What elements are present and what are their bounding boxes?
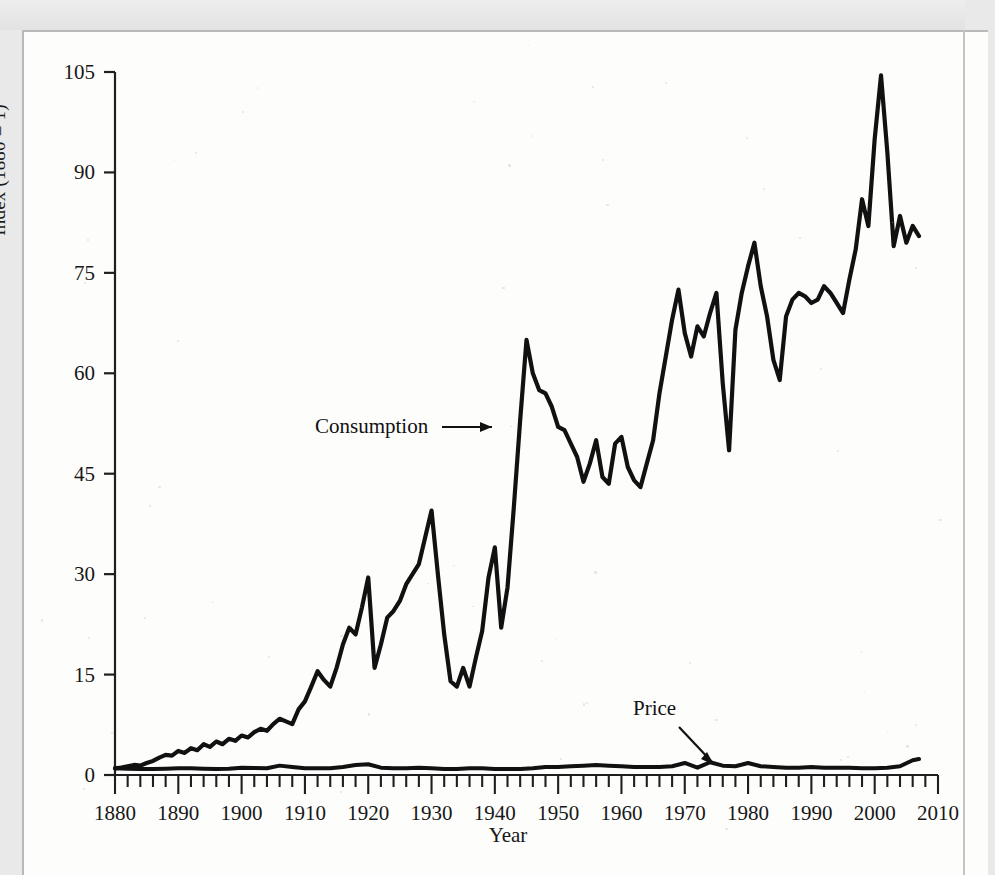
x-axis-group: 1880189019001910192019301940195019601970… — [94, 775, 959, 825]
x-axis-tick-label: 1930 — [411, 801, 453, 825]
y-axis-tick-label: 30 — [74, 562, 95, 586]
y-axis-tick-label: 60 — [74, 361, 95, 385]
x-axis-tick-label: 2010 — [917, 801, 959, 825]
x-axis-tick-label: 1970 — [664, 801, 706, 825]
scan-speck — [594, 571, 597, 574]
scan-speck — [906, 745, 908, 747]
chart-svg: 0153045607590105 18801890190019101920193… — [0, 0, 995, 875]
consumption-arrow-icon — [442, 422, 492, 432]
scan-speck — [820, 368, 821, 369]
x-axis-tick-label: 1960 — [600, 801, 642, 825]
consumption-series-line — [115, 75, 919, 768]
scan-speck — [799, 237, 801, 239]
y-axis-group: 0153045607590105 — [64, 60, 116, 787]
scan-speck — [840, 759, 842, 761]
price-series-line — [115, 759, 919, 769]
y-axis-tick-label: 15 — [74, 663, 95, 687]
y-axis-tick-label: 0 — [85, 763, 96, 787]
scan-speck — [84, 282, 86, 284]
y-axis-tick-label: 45 — [74, 462, 95, 486]
y-axis-title: Index (1880 = 1) — [0, 40, 10, 300]
scan-speck — [939, 519, 941, 521]
scan-speck — [864, 692, 865, 693]
scan-speck — [350, 625, 352, 627]
price-annotation-label: Price — [633, 696, 676, 720]
chart-figure: 0153045607590105 18801890190019101920193… — [0, 0, 995, 875]
scan-speck — [41, 619, 43, 621]
x-axis-tick-label: 1920 — [347, 801, 389, 825]
scan-speck — [531, 135, 532, 136]
scan-speck — [268, 656, 270, 658]
price-arrow-icon — [679, 727, 714, 765]
x-axis-tick-label: 1980 — [727, 801, 769, 825]
scan-speck — [144, 617, 146, 619]
scan-speck — [149, 505, 151, 507]
y-axis-tick-label: 105 — [64, 60, 96, 84]
x-axis-tick-label: 1880 — [94, 801, 136, 825]
scan-speck — [665, 82, 667, 84]
scan-speck — [746, 137, 748, 139]
x-axis-tick-label: 1940 — [474, 801, 516, 825]
x-axis-tick-label: 1890 — [157, 801, 199, 825]
y-axis-tick-label: 90 — [74, 160, 95, 184]
scan-speck — [892, 222, 893, 223]
x-axis-tick-label: 1900 — [221, 801, 263, 825]
scan-speck — [508, 164, 510, 166]
scan-speck — [174, 160, 175, 161]
scan-speck — [83, 788, 84, 789]
scan-speck — [593, 826, 594, 827]
scan-speck — [111, 732, 113, 734]
x-axis-title: Year — [489, 823, 528, 847]
scan-speck — [915, 267, 916, 268]
scan-speck — [555, 639, 556, 640]
x-axis-tick-label: 1910 — [284, 801, 326, 825]
scan-speck — [541, 660, 543, 662]
scanned-page: 0153045607590105 18801890190019101920193… — [0, 0, 995, 875]
consumption-annotation-label: Consumption — [315, 414, 429, 438]
scan-speck — [257, 87, 258, 88]
scan-speck — [583, 703, 585, 705]
x-axis-tick-label: 2000 — [854, 801, 896, 825]
x-axis-tick-label: 1990 — [790, 801, 832, 825]
x-axis-tick-label: 1950 — [537, 801, 579, 825]
